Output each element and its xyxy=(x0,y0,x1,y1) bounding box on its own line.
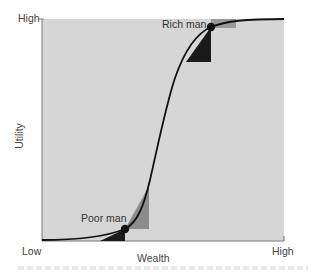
poor-man-label: Poor man xyxy=(81,212,127,224)
utility-chart xyxy=(0,0,315,276)
x-low-label: Low xyxy=(22,245,41,257)
y-axis-label: Utility xyxy=(13,123,25,149)
plot-area xyxy=(42,19,284,241)
rich-man-label: Rich man xyxy=(162,18,206,30)
y-high-label: High xyxy=(18,12,40,24)
x-axis-label: Wealth xyxy=(137,252,170,264)
x-high-label: High xyxy=(272,245,294,257)
poor-man-dot xyxy=(121,225,129,233)
caption-fragment xyxy=(18,266,308,270)
rich-man-dot xyxy=(207,23,215,31)
